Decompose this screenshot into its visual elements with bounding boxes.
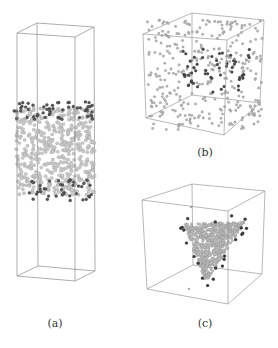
particle-cluster <box>234 234 237 237</box>
particle-gas <box>221 113 224 116</box>
particle-gas <box>252 113 255 116</box>
particle-gas <box>237 34 240 37</box>
particle-cluster <box>208 254 211 257</box>
particle-bulk <box>37 147 40 150</box>
particle-gas <box>185 119 188 122</box>
particle-cluster <box>219 222 222 225</box>
particle-bulk <box>28 133 31 136</box>
particle-bulk <box>71 148 74 151</box>
particle-surface_bottom <box>36 190 39 193</box>
particle-gas <box>166 45 169 48</box>
particle-surface_bottom <box>88 184 91 187</box>
particle-bulk <box>21 118 24 121</box>
particle-surface_bottom <box>82 182 85 185</box>
particle-gas <box>253 105 256 108</box>
particle-cluster <box>200 253 203 256</box>
particle-strings <box>196 85 199 88</box>
particle-surface_bottom <box>85 198 88 201</box>
particle-cluster <box>222 237 225 240</box>
particle-bulk <box>51 150 54 153</box>
particle-gas <box>212 69 215 72</box>
particle-gas <box>200 44 203 47</box>
particle-bulk <box>87 190 90 193</box>
particle-gas <box>230 22 233 25</box>
particle-cluster <box>199 226 202 229</box>
particle-surface_bottom <box>61 193 64 196</box>
particle-cluster_surface <box>193 255 196 258</box>
particle-strings <box>230 71 233 74</box>
particle-surface_bottom <box>48 179 51 182</box>
particle-bulk <box>91 190 94 193</box>
particle-gas <box>165 128 168 131</box>
particle-surface_bottom <box>44 187 47 190</box>
particle-strings <box>231 66 234 69</box>
particle-gas <box>198 83 201 86</box>
particle-surface_top <box>67 106 70 109</box>
particle-bulk <box>44 147 47 150</box>
particle-gas <box>159 86 162 89</box>
particle-gas <box>214 98 217 101</box>
particle-surface_bottom <box>77 185 80 188</box>
particle-gas <box>159 115 162 118</box>
particle-gas <box>175 73 178 76</box>
particle-gas <box>229 28 232 31</box>
particle-gas <box>184 114 187 117</box>
particle-bulk <box>32 128 35 131</box>
particle-gas <box>194 50 197 53</box>
particle-gas <box>241 43 244 46</box>
particle-bulk <box>71 138 74 141</box>
box-edge <box>38 266 95 271</box>
particle-gas <box>218 47 221 50</box>
particle-strings <box>218 66 221 69</box>
particle-gas <box>169 45 172 48</box>
particle-bulk <box>41 140 44 143</box>
particle-strings <box>206 72 209 75</box>
particle-bulk <box>53 186 56 189</box>
particle-strings <box>211 90 214 93</box>
particle-gas <box>164 62 167 65</box>
particle-cluster <box>215 236 218 239</box>
particle-bulk <box>18 193 21 196</box>
particle-bulk <box>58 156 61 159</box>
particle-bulk <box>68 173 71 176</box>
particle-bulk <box>50 176 53 179</box>
particle-gas <box>191 114 194 117</box>
particle-bulk <box>53 127 56 130</box>
particle-cluster <box>201 270 204 273</box>
particle-surface_bottom <box>87 195 90 198</box>
particle-cluster <box>194 233 197 236</box>
particle-gas <box>202 98 205 101</box>
box-edge <box>262 191 265 274</box>
particle-bulk <box>77 145 80 148</box>
box-edge <box>142 200 147 289</box>
particle-gas <box>167 22 170 25</box>
particle-bulk <box>44 175 47 178</box>
particle-gas <box>246 67 249 70</box>
particle-gas <box>223 72 226 75</box>
particle-surface_top <box>86 109 89 112</box>
particle-surface_bottom <box>39 187 42 190</box>
particle-bulk <box>60 139 63 142</box>
particle-gas <box>187 103 190 106</box>
particle-cluster <box>213 244 216 247</box>
particle-gas <box>148 51 151 54</box>
particle-bulk <box>59 169 62 172</box>
particle-gas <box>205 23 208 26</box>
particle-cluster_surface <box>230 214 233 217</box>
box-edge <box>146 118 224 135</box>
box-edge <box>142 200 228 211</box>
particle-bulk <box>79 155 82 158</box>
particle-gas <box>191 92 194 95</box>
particle-gas <box>242 96 245 99</box>
particle-bulk <box>91 169 94 172</box>
particle-strings <box>202 48 205 51</box>
particle-cluster <box>200 257 203 260</box>
particle-surface_bottom <box>55 195 58 198</box>
particle-bulk <box>82 124 85 127</box>
particle-bulk <box>20 131 23 134</box>
particle-bulk <box>71 193 74 196</box>
particle-gas <box>261 37 264 40</box>
particle-gas <box>194 103 197 106</box>
particle-gas <box>158 32 161 35</box>
particle-bulk <box>70 169 73 172</box>
